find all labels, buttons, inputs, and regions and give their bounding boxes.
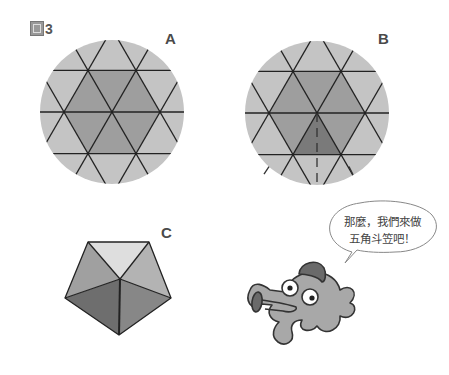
character-right-pupil xyxy=(309,295,314,300)
diagram-canvas xyxy=(0,0,449,375)
panel-b-circle-diagram xyxy=(209,9,425,217)
character-left-pupil xyxy=(287,285,292,290)
cone-edge-seam xyxy=(119,279,120,335)
character-body xyxy=(248,272,355,344)
speech-line-2: 五角斗笠吧！ xyxy=(334,231,430,248)
cartoon-character xyxy=(248,262,355,344)
panel-a-circle-diagram xyxy=(4,8,220,216)
panel-c-pentagonal-cone xyxy=(65,242,171,335)
panel-a-grid-lines xyxy=(4,8,220,216)
cut-line xyxy=(261,167,269,179)
speech-bubble-text: 那麼，我們來做 五角斗笠吧！ xyxy=(334,214,430,248)
speech-line-1: 那麼，我們來做 xyxy=(334,214,430,231)
